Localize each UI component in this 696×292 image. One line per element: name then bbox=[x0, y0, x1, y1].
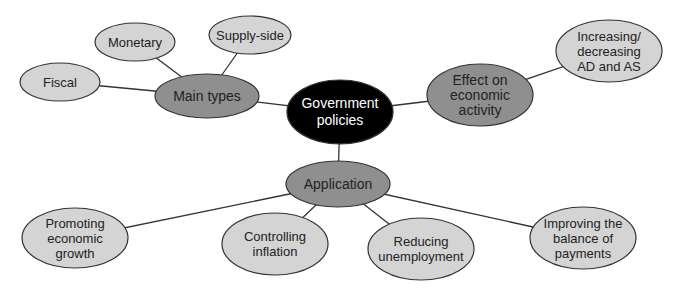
label-effect-on-economic-activity: activity bbox=[459, 102, 502, 118]
label-improving-balance-of-payments: balance of bbox=[553, 231, 613, 246]
node-promoting-economic-growth: Promotingeconomicgrowth bbox=[22, 208, 128, 268]
label-reducing-unemployment: unemployment bbox=[378, 249, 464, 264]
label-improving-balance-of-payments: Improving the bbox=[544, 216, 623, 231]
node-main-types: Main types bbox=[155, 74, 259, 118]
label-supply-side: Supply-side bbox=[216, 28, 284, 43]
node-application: Application bbox=[286, 161, 390, 207]
label-government-policies: policies bbox=[317, 112, 364, 128]
node-controlling-inflation: Controllinginflation bbox=[222, 213, 328, 275]
label-increasing-decreasing-ad-as: Increasing/ bbox=[577, 29, 641, 44]
node-fiscal: Fiscal bbox=[20, 63, 100, 101]
label-promoting-economic-growth: economic bbox=[47, 231, 103, 246]
node-supply-side: Supply-side bbox=[209, 16, 291, 54]
node-improving-balance-of-payments: Improving thebalance ofpayments bbox=[530, 207, 636, 269]
label-monetary: Monetary bbox=[108, 35, 163, 50]
label-increasing-decreasing-ad-as: AD and AS bbox=[577, 59, 641, 74]
label-controlling-inflation: inflation bbox=[253, 244, 298, 259]
label-promoting-economic-growth: growth bbox=[55, 246, 94, 261]
node-effect-on-economic-activity: Effect oneconomicactivity bbox=[427, 64, 533, 126]
node-monetary: Monetary bbox=[95, 23, 175, 61]
label-effect-on-economic-activity: economic bbox=[450, 87, 510, 103]
label-fiscal: Fiscal bbox=[43, 75, 77, 90]
label-effect-on-economic-activity: Effect on bbox=[452, 72, 507, 88]
nodes: FiscalMonetarySupply-sideIncreasing/decr… bbox=[20, 16, 662, 280]
label-government-policies: Government bbox=[301, 95, 378, 111]
mind-map-diagram: FiscalMonetarySupply-sideIncreasing/decr… bbox=[0, 0, 696, 292]
label-promoting-economic-growth: Promoting bbox=[45, 216, 104, 231]
label-reducing-unemployment: Reducing bbox=[394, 234, 449, 249]
node-government-policies: Governmentpolicies bbox=[287, 80, 393, 144]
label-controlling-inflation: Controlling bbox=[244, 229, 306, 244]
label-application: Application bbox=[304, 176, 373, 192]
node-reducing-unemployment: Reducingunemployment bbox=[368, 218, 474, 280]
label-main-types: Main types bbox=[173, 88, 241, 104]
node-increasing-decreasing-ad-as: Increasing/decreasingAD and AS bbox=[556, 20, 662, 82]
label-increasing-decreasing-ad-as: decreasing bbox=[577, 44, 641, 59]
label-improving-balance-of-payments: payments bbox=[555, 246, 612, 261]
